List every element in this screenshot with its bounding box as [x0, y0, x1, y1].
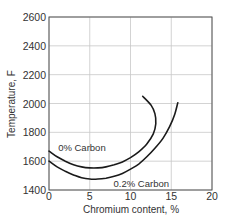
- series-label-1: 0.2% Carbon: [114, 178, 169, 189]
- curve-series-1: [49, 103, 178, 179]
- x-tick-label: 5: [87, 190, 93, 202]
- y-tick-labels: 1400160018002000220024002600: [23, 11, 47, 196]
- x-tick-labels: 05101520: [46, 190, 218, 202]
- chromium-temperature-chart: 1400160018002000220024002600 05101520 0%…: [0, 0, 227, 222]
- x-tick-label: 20: [206, 190, 218, 202]
- x-tick-label: 15: [165, 190, 177, 202]
- x-axis-label: Chromium content, %: [83, 204, 179, 215]
- series-label-0: 0% Carbon: [58, 142, 106, 153]
- y-tick-label: 2600: [23, 11, 47, 23]
- y-tick-label: 2400: [23, 40, 47, 52]
- y-tick-label: 1400: [23, 184, 47, 196]
- x-tick-label: 0: [46, 190, 52, 202]
- data-curves: [49, 96, 178, 179]
- y-axis-label: Temperature, F: [6, 70, 17, 138]
- y-tick-label: 1600: [23, 155, 47, 167]
- x-tick-label: 10: [125, 190, 137, 202]
- y-tick-label: 1800: [23, 126, 47, 138]
- y-tick-label: 2000: [23, 98, 47, 110]
- y-tick-label: 2200: [23, 69, 47, 81]
